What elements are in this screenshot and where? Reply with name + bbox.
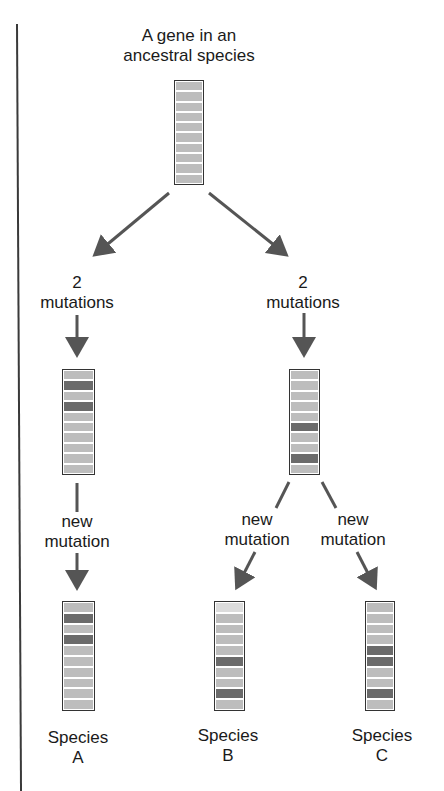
gene-band	[176, 82, 202, 90]
species-label-c: Species C	[352, 726, 412, 766]
mutated-band	[367, 646, 393, 655]
species-label-b: Species B	[198, 726, 258, 766]
gene-band	[176, 144, 202, 152]
gene-band	[176, 154, 202, 162]
arrow-c-upper	[322, 482, 336, 508]
new-word: new	[320, 510, 385, 530]
mutated-band	[291, 423, 318, 431]
gene-band	[216, 679, 243, 688]
gene-band	[64, 603, 93, 612]
gene-band	[64, 444, 93, 452]
species-letter: C	[352, 746, 412, 766]
species-letter: A	[48, 748, 108, 768]
mutated-band	[64, 614, 93, 623]
mutation-word: mutations	[266, 293, 340, 313]
gene-ancestor	[174, 80, 204, 185]
mutated-band	[216, 689, 243, 698]
gene-band	[176, 92, 202, 100]
gene-band	[367, 700, 393, 709]
mutation-label-left: 2 mutations	[40, 273, 114, 313]
gene-band	[176, 113, 202, 121]
gene-band	[64, 433, 93, 441]
mutation-count: 2	[40, 273, 114, 293]
gene-band	[291, 413, 318, 421]
gene-band	[176, 133, 202, 141]
mutated-band	[367, 689, 393, 698]
gene-band	[64, 371, 93, 379]
arrow-ancestor-to-left	[97, 193, 169, 253]
gene-band	[64, 679, 93, 688]
mutation-word: mutations	[40, 293, 114, 313]
new-mutation-label-a: new mutation	[44, 512, 109, 552]
gene-band	[216, 635, 243, 644]
gene-band	[64, 689, 93, 698]
gene-band	[367, 625, 393, 634]
gene-band	[64, 625, 93, 634]
mutation-word: mutation	[44, 532, 109, 552]
gene-band	[216, 625, 243, 634]
gene-band	[64, 413, 93, 421]
mutation-label-right: 2 mutations	[266, 273, 340, 313]
new-word: new	[44, 512, 109, 532]
gene-band	[216, 646, 243, 655]
gene-band	[216, 603, 243, 612]
species-word: Species	[48, 728, 108, 748]
mutation-count: 2	[266, 273, 340, 293]
gene-band	[64, 646, 93, 655]
gene-species-a	[62, 601, 95, 711]
gene-band	[216, 700, 243, 709]
new-mutation-label-c: new mutation	[320, 510, 385, 550]
mutated-band	[291, 454, 318, 462]
gene-band	[64, 454, 93, 462]
species-label-a: Species A	[48, 728, 108, 768]
gene-band	[64, 423, 93, 431]
gene-band	[291, 371, 318, 379]
gene-intermediate-left	[62, 369, 95, 475]
gene-band	[64, 392, 93, 400]
gene-band	[291, 433, 318, 441]
gene-band	[176, 103, 202, 111]
mutated-band	[64, 402, 93, 410]
species-word: Species	[352, 726, 412, 746]
gene-band	[367, 614, 393, 623]
species-word: Species	[198, 726, 258, 746]
gene-band	[64, 657, 93, 666]
gene-band	[367, 668, 393, 677]
gene-band	[176, 164, 202, 172]
arrow-b-upper	[276, 482, 289, 508]
species-letter: B	[198, 746, 258, 766]
mutated-band	[64, 635, 93, 644]
gene-band	[216, 614, 243, 623]
gene-intermediate-right	[289, 369, 320, 475]
gene-species-b	[214, 601, 245, 711]
mutation-word: mutation	[224, 530, 289, 550]
mutated-band	[64, 381, 93, 389]
gene-band	[291, 402, 318, 410]
gene-band	[64, 700, 93, 709]
gene-band	[291, 381, 318, 389]
gene-species-c	[365, 601, 395, 711]
arrow-b-lower	[238, 552, 255, 585]
new-word: new	[224, 510, 289, 530]
gene-band	[64, 465, 93, 473]
gene-band	[367, 679, 393, 688]
arrow-c-lower	[357, 552, 374, 585]
mutated-band	[216, 657, 243, 666]
gene-band	[367, 603, 393, 612]
new-mutation-label-b: new mutation	[224, 510, 289, 550]
gene-band	[367, 635, 393, 644]
gene-band	[291, 392, 318, 400]
mutated-band	[367, 657, 393, 666]
mutation-word: mutation	[320, 530, 385, 550]
gene-band	[176, 123, 202, 131]
gene-band	[176, 175, 202, 183]
gene-band	[291, 465, 318, 473]
gene-band	[64, 668, 93, 677]
gene-band	[291, 444, 318, 452]
gene-band	[216, 668, 243, 677]
arrow-ancestor-to-right	[209, 193, 284, 253]
